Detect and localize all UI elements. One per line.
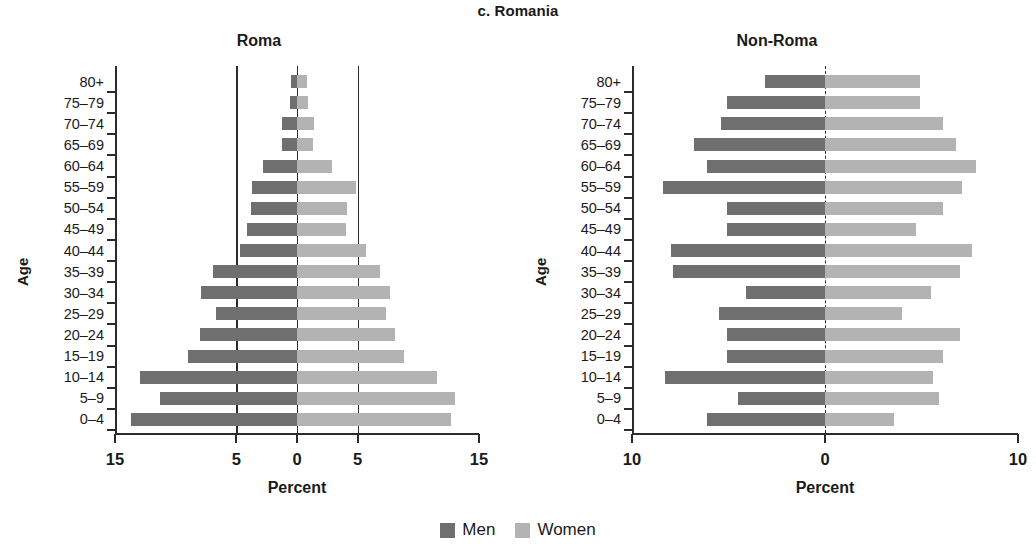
legend-swatch-women-icon bbox=[515, 523, 530, 538]
y-axis-tick bbox=[107, 408, 115, 410]
bar-women bbox=[297, 265, 380, 278]
bar-women bbox=[297, 75, 307, 88]
bar-women bbox=[825, 392, 939, 405]
x-axis-tick bbox=[631, 434, 633, 443]
pyramid-row bbox=[115, 265, 479, 278]
bar-men bbox=[282, 138, 297, 151]
y-axis-label: 55–59 bbox=[581, 180, 621, 195]
x-axis-label: 0 bbox=[292, 450, 301, 469]
bar-men bbox=[200, 328, 297, 341]
y-axis-label: 80+ bbox=[596, 74, 621, 89]
y-axis-tick bbox=[107, 197, 115, 199]
y-axis-tick bbox=[624, 366, 632, 368]
pyramid-row bbox=[632, 371, 1018, 384]
x-axis-tick bbox=[478, 434, 480, 443]
y-axis-tick bbox=[624, 429, 632, 431]
pyramid-row bbox=[632, 265, 1018, 278]
bar-women bbox=[825, 75, 920, 88]
y-axis-label: 50–54 bbox=[64, 201, 104, 216]
pyramid-row bbox=[632, 223, 1018, 236]
bar-men bbox=[263, 160, 297, 173]
bar-women bbox=[825, 138, 956, 151]
bar-women bbox=[825, 96, 920, 109]
bar-women bbox=[297, 96, 308, 109]
y-axis-tick bbox=[107, 281, 115, 283]
pyramid-row bbox=[115, 138, 479, 151]
bar-women bbox=[825, 223, 916, 236]
plot-area-non-roma: Percent 80+75–7970–7465–6960–6455–5950–5… bbox=[632, 70, 1018, 435]
bar-men bbox=[188, 350, 297, 363]
bar-men bbox=[140, 371, 297, 384]
y-axis-label: 10–14 bbox=[64, 370, 104, 385]
bar-men bbox=[738, 392, 825, 405]
legend-item-women: Women bbox=[515, 520, 595, 540]
bar-women bbox=[297, 244, 366, 257]
bar-women bbox=[297, 371, 437, 384]
bar-men bbox=[240, 244, 297, 257]
bar-men bbox=[252, 181, 297, 194]
bar-women bbox=[297, 350, 404, 363]
y-axis-label: 10–14 bbox=[581, 370, 621, 385]
x-axis-label: 5 bbox=[353, 450, 362, 469]
legend: Men Women bbox=[0, 520, 1036, 540]
y-axis-label: 40–44 bbox=[64, 243, 104, 258]
y-axis-label: 75–79 bbox=[64, 95, 104, 110]
bar-women bbox=[297, 160, 332, 173]
y-axis-label: 0–4 bbox=[80, 412, 104, 427]
bar-men bbox=[721, 117, 825, 130]
bar-men bbox=[727, 350, 825, 363]
y-axis-tick bbox=[624, 197, 632, 199]
x-axis-tick bbox=[114, 434, 116, 443]
x-axis-tick bbox=[824, 434, 826, 443]
bar-women bbox=[825, 307, 902, 320]
y-axis-label: 20–24 bbox=[581, 328, 621, 343]
y-axis-label: 65–69 bbox=[581, 138, 621, 153]
y-axis-label: 40–44 bbox=[581, 243, 621, 258]
bar-women bbox=[825, 413, 894, 426]
bar-women bbox=[825, 160, 976, 173]
pyramid-row bbox=[115, 117, 479, 130]
bar-men bbox=[707, 160, 825, 173]
bar-women bbox=[297, 286, 390, 299]
x-axis-tick bbox=[1017, 434, 1019, 443]
y-axis-tick bbox=[624, 154, 632, 156]
bar-women bbox=[825, 181, 962, 194]
y-axis-tick bbox=[624, 281, 632, 283]
bar-men bbox=[694, 138, 825, 151]
panel-roma: Roma Age Percent 80+75–7970–7465–6960–64… bbox=[0, 28, 518, 498]
bar-women bbox=[297, 392, 455, 405]
bar-men bbox=[282, 117, 297, 130]
bar-men bbox=[665, 371, 825, 384]
y-axis-label: 15–19 bbox=[64, 349, 104, 364]
pyramid-row bbox=[632, 307, 1018, 320]
pyramid-row bbox=[632, 75, 1018, 88]
bar-men bbox=[707, 413, 825, 426]
bar-women bbox=[297, 202, 347, 215]
bar-women bbox=[825, 265, 960, 278]
bar-men bbox=[727, 96, 825, 109]
y-axis-tick bbox=[107, 387, 115, 389]
y-axis-tick bbox=[107, 366, 115, 368]
y-axis-label: 35–39 bbox=[581, 264, 621, 279]
pyramid-row bbox=[115, 181, 479, 194]
y-axis-tick bbox=[107, 176, 115, 178]
bar-women bbox=[297, 181, 356, 194]
y-axis-label: 80+ bbox=[79, 74, 104, 89]
bar-men bbox=[673, 265, 825, 278]
pyramid-row bbox=[115, 202, 479, 215]
bar-men bbox=[671, 244, 825, 257]
bar-women bbox=[825, 350, 943, 363]
y-axis-tick bbox=[107, 302, 115, 304]
y-axis-tick bbox=[107, 112, 115, 114]
y-axis-tick bbox=[107, 91, 115, 93]
bar-men bbox=[663, 181, 825, 194]
x-axis-title-roma: Percent bbox=[115, 479, 479, 497]
y-axis-tick bbox=[624, 302, 632, 304]
y-axis-label: 70–74 bbox=[64, 117, 104, 132]
y-axis-tick bbox=[624, 408, 632, 410]
y-axis-tick bbox=[624, 91, 632, 93]
panel-title-non-roma: Non-Roma bbox=[518, 32, 1036, 50]
pyramid-row bbox=[115, 160, 479, 173]
y-axis-label: 5–9 bbox=[597, 391, 621, 406]
pyramid-row bbox=[632, 160, 1018, 173]
